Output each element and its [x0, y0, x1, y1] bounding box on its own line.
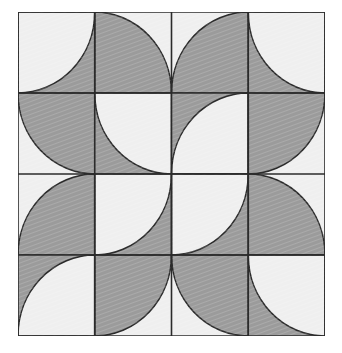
- page-canvas: [0, 0, 342, 353]
- tile-texture-overlay: [18, 12, 95, 93]
- tile-texture-overlay: [248, 174, 325, 255]
- tile-r0-c3: [248, 12, 325, 93]
- tile-r0-c1: [95, 12, 172, 93]
- tile-r3-c1: [95, 255, 172, 336]
- tile-texture-overlay: [248, 255, 325, 336]
- tile-texture-overlay: [95, 255, 172, 336]
- tile-r3-c3: [248, 255, 325, 336]
- tile-r0-c2: [172, 12, 249, 93]
- tile-r3-c0: [18, 255, 95, 336]
- tile-texture-overlay: [172, 174, 249, 255]
- tile-texture-overlay: [172, 255, 249, 336]
- tile-r2-c2: [172, 174, 249, 255]
- tile-texture-overlay: [172, 12, 249, 93]
- tile-r0-c0: [18, 12, 95, 93]
- tile-texture-overlay: [248, 93, 325, 174]
- tile-texture-overlay: [95, 93, 172, 174]
- tile-texture-overlay: [248, 12, 325, 93]
- tile-r3-c2: [172, 255, 249, 336]
- tile-r1-c0: [18, 93, 95, 174]
- tile-r2-c0: [18, 174, 95, 255]
- tile-r1-c3: [248, 93, 325, 174]
- tile-pattern-svg: [18, 12, 325, 336]
- tile-texture-overlay: [18, 255, 95, 336]
- tile-r1-c2: [172, 93, 249, 174]
- truchet-pattern-figure: [18, 12, 325, 336]
- tile-texture-overlay: [18, 174, 95, 255]
- tile-texture-overlay: [172, 93, 249, 174]
- tile-r2-c1: [95, 174, 172, 255]
- tile-texture-overlay: [95, 12, 172, 93]
- tile-r2-c3: [248, 174, 325, 255]
- tile-r1-c1: [95, 93, 172, 174]
- tile-texture-overlay: [95, 174, 172, 255]
- tile-texture-overlay: [18, 93, 95, 174]
